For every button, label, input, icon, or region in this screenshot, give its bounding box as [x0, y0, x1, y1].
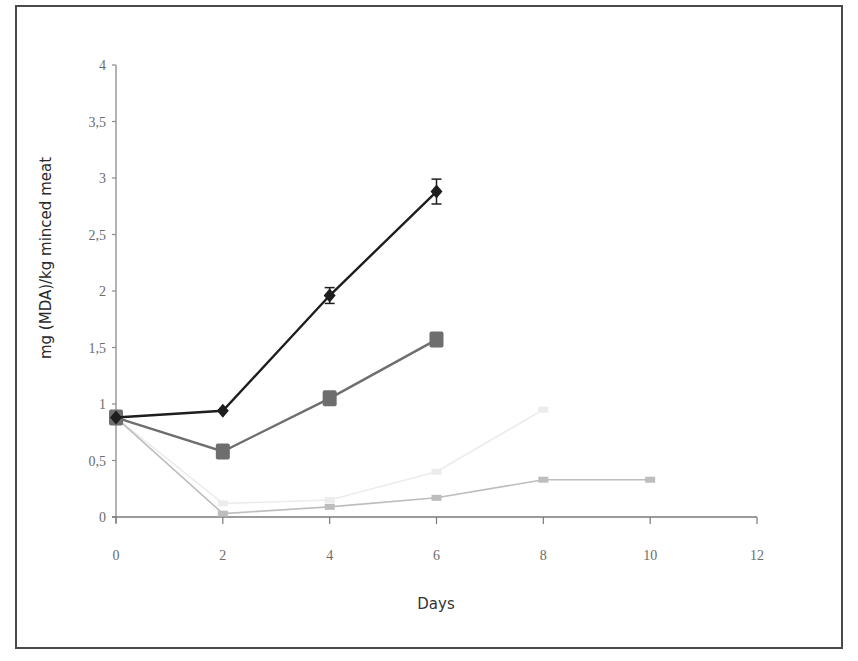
series-line	[116, 340, 437, 452]
series-line	[116, 418, 650, 514]
y-axis-title: mg (MDA)/kg minced meat	[37, 157, 55, 359]
y-tick-label: 1	[99, 397, 106, 412]
small-square-marker	[325, 497, 335, 503]
small-square-marker	[645, 477, 655, 483]
y-tick-label: 3	[99, 171, 106, 186]
x-axis-title: Days	[417, 595, 455, 613]
x-tick-label: 0	[113, 548, 120, 563]
y-tick-label: 0,5	[89, 454, 107, 469]
series-4	[111, 407, 548, 507]
x-tick-label: 12	[750, 548, 764, 563]
y-tick-label: 3,5	[89, 115, 107, 130]
series-2	[109, 332, 444, 460]
small-square-marker	[432, 495, 442, 501]
series-1	[110, 179, 443, 424]
small-square-marker	[538, 407, 548, 413]
y-tick-label: 2	[99, 284, 106, 299]
series-line	[116, 192, 437, 418]
x-tick-label: 10	[643, 548, 657, 563]
x-tick-label: 6	[433, 548, 440, 563]
x-tick-label: 4	[326, 548, 333, 563]
small-square-marker	[218, 511, 228, 517]
series-line	[116, 410, 543, 504]
series-layer	[109, 179, 655, 516]
y-tick-label: 4	[99, 58, 106, 73]
small-square-marker	[218, 500, 228, 506]
y-tick-label: 2,5	[89, 228, 107, 243]
small-square-marker	[432, 469, 442, 475]
y-tick-label: 0	[99, 510, 106, 525]
small-square-marker	[325, 504, 335, 510]
axes: 00,511,522,533,54024681012	[89, 58, 765, 563]
y-tick-label: 1,5	[89, 341, 107, 356]
square-marker	[430, 332, 444, 348]
series-3	[111, 415, 655, 517]
x-tick-label: 8	[540, 548, 547, 563]
square-marker	[216, 443, 230, 459]
x-tick-label: 2	[219, 548, 226, 563]
line-chart: 00,511,522,533,54024681012 Days mg (MDA)…	[0, 0, 858, 661]
small-square-marker	[538, 477, 548, 483]
square-marker	[323, 390, 337, 406]
